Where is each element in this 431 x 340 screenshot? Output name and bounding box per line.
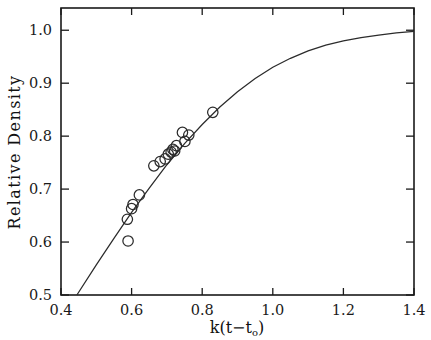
y-tick-label: 0.9 <box>29 75 52 91</box>
chart-background <box>0 0 431 340</box>
x-tick-label: 1.2 <box>332 302 355 318</box>
y-tick-label: 1.0 <box>29 22 52 38</box>
y-axis-title: Relative Density <box>5 74 24 229</box>
y-tick-label: 0.6 <box>29 234 52 250</box>
figure-container: 0.40.60.81.01.21.4 0.50.60.70.80.91.0 k(… <box>0 0 431 340</box>
y-tick-label: 0.8 <box>29 128 52 144</box>
y-tick-label: 0.5 <box>29 287 52 303</box>
relative-density-scatter-chart: 0.40.60.81.01.21.4 0.50.60.70.80.91.0 k(… <box>0 0 431 340</box>
y-tick-label: 0.7 <box>29 181 52 197</box>
x-tick-label: 1.4 <box>402 302 425 318</box>
x-tick-label: 0.8 <box>191 302 214 318</box>
x-tick-label: 0.4 <box>49 302 72 318</box>
x-tick-label: 1.0 <box>261 302 284 318</box>
x-tick-label: 0.6 <box>120 302 143 318</box>
